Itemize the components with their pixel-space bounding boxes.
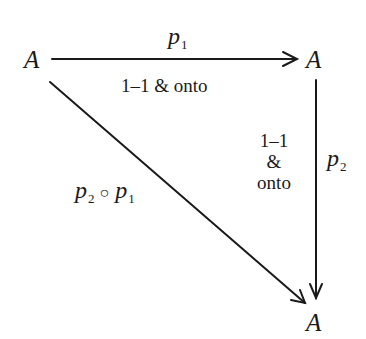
annotation-p2: 1–1 & onto — [252, 130, 296, 193]
annotation-p2-line-1: 1–1 — [252, 130, 296, 151]
annotation-p2-line-2: & — [252, 151, 296, 172]
label-p1-subscript: 1 — [181, 37, 188, 52]
composite-p1-subscript: 1 — [128, 191, 135, 206]
label-p2-symbol: p — [327, 145, 339, 171]
node-bottom-right: A — [306, 310, 321, 335]
composite-p2-symbol: p — [75, 177, 87, 203]
composite-p2-subscript: 2 — [88, 191, 95, 206]
annotation-p1: 1–1 & onto — [121, 76, 208, 95]
label-p2: p2 — [327, 146, 346, 170]
annotation-p2-line-3: onto — [252, 172, 296, 193]
compose-operator-icon: ○ — [100, 184, 110, 201]
node-top-left: A — [24, 47, 39, 72]
label-p2-subscript: 2 — [340, 159, 347, 174]
composite-p1-symbol: p — [115, 177, 127, 203]
label-p1: p1 — [168, 24, 187, 48]
node-top-right: A — [306, 47, 321, 72]
label-composite: p2 ○ p1 — [75, 178, 134, 202]
label-p1-symbol: p — [168, 23, 180, 49]
